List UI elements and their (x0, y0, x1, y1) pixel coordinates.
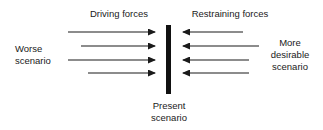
restraining-forces-heading: Restraining forces (182, 8, 278, 20)
force-field-diagram: Driving forces Restraining forces Worse … (0, 0, 323, 130)
present-scenario-line1: Present (139, 100, 199, 112)
worse-scenario-line2: scenario (15, 55, 51, 67)
present-scenario-bar (166, 25, 171, 94)
more-desirable-scenario-label: More desirable scenario (262, 37, 318, 73)
restraining-forces-arrows (183, 32, 259, 73)
driving-forces-heading: Driving forces (80, 8, 158, 20)
more-desirable-line1: More (262, 37, 318, 49)
more-desirable-line2: desirable (262, 49, 318, 61)
present-scenario-label: Present scenario (139, 100, 199, 124)
worse-scenario-label: Worse scenario (15, 43, 51, 67)
present-scenario-line2: scenario (139, 112, 199, 124)
more-desirable-line3: scenario (262, 61, 318, 73)
driving-forces-arrows (68, 32, 155, 73)
worse-scenario-line1: Worse (15, 43, 51, 55)
